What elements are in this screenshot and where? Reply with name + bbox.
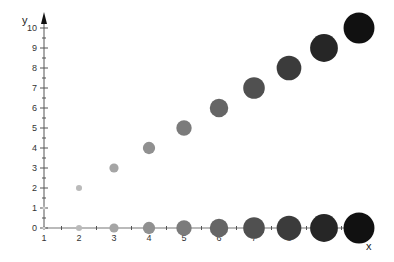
y-tick-label: 9: [32, 43, 37, 53]
x-tick-label: 4: [146, 233, 151, 243]
y-tick-label: 5: [32, 123, 37, 133]
data-point: [344, 13, 375, 44]
data-point: [243, 77, 265, 99]
data-points: [43, 13, 375, 244]
data-point: [277, 216, 302, 241]
data-point: [109, 223, 118, 232]
x-axis-label: x: [366, 240, 372, 252]
bubble-chart: 123456789012345678910 x y: [0, 0, 394, 262]
data-point: [310, 34, 338, 62]
x-tick-label: 2: [76, 233, 81, 243]
y-tick-label: 4: [32, 143, 37, 153]
y-tick-label: 0: [32, 223, 37, 233]
data-point: [76, 225, 82, 231]
data-point: [344, 213, 375, 244]
data-point: [76, 185, 82, 191]
y-axis-arrow-icon: [41, 12, 47, 24]
y-tick-label: 7: [32, 83, 37, 93]
x-tick-label: 3: [111, 233, 116, 243]
data-point: [176, 120, 191, 135]
y-tick-label: 1: [32, 203, 37, 213]
data-point: [277, 56, 302, 81]
y-axis-label: y: [22, 14, 28, 26]
data-point: [43, 207, 46, 210]
x-tick-label: 1: [41, 233, 46, 243]
data-point: [243, 217, 265, 239]
y-tick-label: 10: [27, 23, 37, 33]
data-point: [43, 227, 46, 230]
data-point: [143, 222, 155, 234]
data-point: [109, 163, 118, 172]
y-tick-label: 3: [32, 163, 37, 173]
data-point: [310, 214, 338, 242]
data-point: [143, 142, 155, 154]
y-tick-label: 8: [32, 63, 37, 73]
data-point: [210, 219, 229, 238]
y-tick-label: 6: [32, 103, 37, 113]
data-point: [176, 220, 191, 235]
y-tick-label: 2: [32, 183, 37, 193]
data-point: [210, 99, 229, 118]
